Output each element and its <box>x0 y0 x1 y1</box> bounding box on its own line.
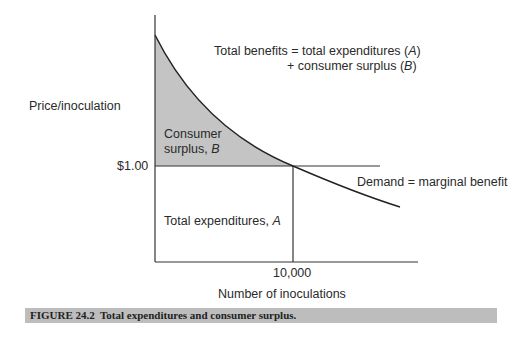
demand-label: Demand = marginal benefit <box>357 175 507 190</box>
price-tick-label: $1.00 <box>117 159 148 174</box>
consumer-surplus-label-line1: Consumer <box>164 127 222 142</box>
figure-caption: FIGURE 24.2 Total expenditures and consu… <box>25 308 497 323</box>
consumer-surplus-label-line2: surplus, B <box>164 142 220 157</box>
total-expenditures-label: Total expenditures, A <box>164 214 281 229</box>
y-axis-label: Price/inoculation <box>29 99 121 114</box>
figure-title: Total expenditures and consumer surplus. <box>100 308 296 323</box>
total-benefits-line2: + consumer surplus (B) <box>287 59 417 74</box>
figure-number: FIGURE 24.2 <box>30 308 95 323</box>
total-benefits-line1: Total benefits = total expenditures (A) <box>214 44 421 59</box>
quantity-tick-label: 10,000 <box>273 266 311 281</box>
x-axis-label: Number of inoculations <box>218 287 346 302</box>
